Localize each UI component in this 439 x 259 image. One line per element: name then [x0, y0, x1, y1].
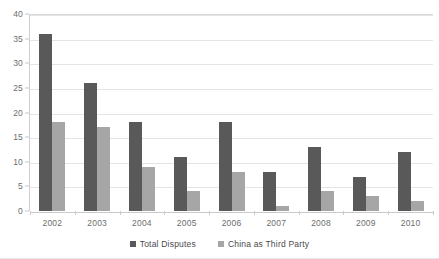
x-tick-mark [299, 211, 300, 215]
x-axis-tick-label: 2002 [43, 218, 63, 228]
bar[interactable] [174, 157, 187, 211]
legend-label: China as Third Party [228, 239, 309, 249]
x-tick-mark [120, 211, 121, 215]
bar[interactable] [411, 201, 424, 211]
x-axis-tick-label: 2004 [132, 218, 152, 228]
y-axis: 0510152025303540 [0, 14, 29, 211]
bar[interactable] [321, 191, 334, 211]
x-tick-mark [388, 211, 389, 215]
y-axis-tick-label: 35 [13, 34, 23, 44]
x-axis-tick-label: 2005 [177, 218, 197, 228]
y-axis-tick-label: 25 [13, 83, 23, 93]
legend-swatch-icon [130, 241, 136, 247]
x-tick-mark [209, 211, 210, 215]
bar[interactable] [232, 172, 245, 211]
x-axis-tick-label: 2007 [266, 218, 286, 228]
bar-chart: 0510152025303540 20022003200420052006200… [0, 0, 439, 259]
y-axis-tick-label: 10 [13, 157, 23, 167]
legend-item[interactable]: China as Third Party [218, 239, 309, 249]
x-tick-mark [164, 211, 165, 215]
bar-group [308, 14, 334, 211]
x-axis-tick-label: 2009 [356, 218, 376, 228]
bars-layer [30, 14, 433, 211]
bar[interactable] [52, 122, 65, 211]
chart-legend: Total DisputesChina as Third Party [0, 239, 439, 249]
legend-label: Total Disputes [140, 239, 196, 249]
bar[interactable] [187, 191, 200, 211]
y-axis-tick-label: 20 [13, 108, 23, 118]
bar[interactable] [366, 196, 379, 211]
bar[interactable] [129, 122, 142, 211]
bar[interactable] [263, 172, 276, 211]
bar[interactable] [219, 122, 232, 211]
bar-group [174, 14, 200, 211]
x-axis-tick-label: 2008 [311, 218, 331, 228]
bar[interactable] [84, 83, 97, 211]
bar[interactable] [142, 167, 155, 211]
bar-group [263, 14, 289, 211]
y-axis-tick-label: 5 [18, 181, 23, 191]
bar[interactable] [353, 177, 366, 211]
bar-group [129, 14, 155, 211]
bar-group [39, 14, 65, 211]
y-axis-tick-label: 40 [13, 9, 23, 19]
legend-swatch-icon [218, 241, 224, 247]
x-axis-tick-label: 2003 [87, 218, 107, 228]
x-axis: 200220032004200520062007200820092010 [30, 211, 433, 233]
legend-item[interactable]: Total Disputes [130, 239, 196, 249]
bar[interactable] [308, 147, 321, 211]
x-tick-mark [75, 211, 76, 215]
x-tick-mark [433, 211, 434, 215]
bar[interactable] [97, 127, 110, 211]
y-axis-tick-label: 30 [13, 58, 23, 68]
bar-group [84, 14, 110, 211]
bar-group [398, 14, 424, 211]
x-tick-mark [254, 211, 255, 215]
y-axis-tick-label: 15 [13, 132, 23, 142]
x-tick-mark [343, 211, 344, 215]
x-axis-tick-label: 2010 [401, 218, 421, 228]
bar[interactable] [39, 34, 52, 211]
y-axis-tick-label: 0 [18, 206, 23, 216]
x-tick-mark [30, 211, 31, 215]
bar[interactable] [398, 152, 411, 211]
bar-group [353, 14, 379, 211]
bar-group [219, 14, 245, 211]
x-axis-tick-label: 2006 [222, 218, 242, 228]
